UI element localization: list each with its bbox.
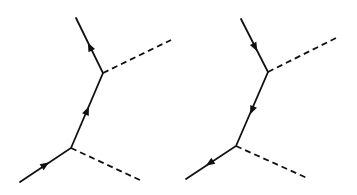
boson-line-dashed	[103, 40, 171, 73]
arrow-icon	[85, 41, 95, 52]
boson-line-dashed	[71, 148, 142, 181]
boson-line-dashed	[236, 146, 307, 178]
feynman-diagrams	[0, 0, 357, 195]
arrow-icon	[250, 42, 261, 53]
right-diagram	[186, 19, 338, 179]
boson-line-dashed	[268, 37, 338, 72]
arrow-icon	[82, 105, 92, 116]
arrow-icon	[247, 105, 257, 116]
left-diagram	[20, 18, 171, 182]
